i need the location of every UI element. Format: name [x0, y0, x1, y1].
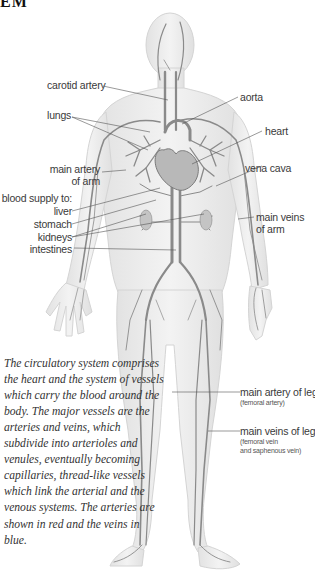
label-blood-supply-to: blood supply to: — [0, 192, 72, 204]
label-stomach: stomach — [0, 218, 72, 230]
label-vena-cava: vena cava — [245, 162, 291, 174]
label-main-veins-of-arm: main veins of arm — [256, 211, 304, 235]
label-main-artery-of-leg: main artery of leg (femoral artery) — [240, 386, 315, 407]
label-liver: liver — [0, 205, 72, 217]
label-main-veins-of-leg-sub2: and saphenous vein) — [240, 446, 315, 455]
label-main-veins-of-leg-title: main veins of leg — [240, 425, 315, 437]
label-main-veins-of-arm-line2: of arm — [256, 223, 285, 235]
label-kidneys: kidneys — [0, 231, 72, 243]
label-heart: heart — [265, 125, 288, 137]
label-main-artery-of-leg-title: main artery of leg — [240, 386, 315, 398]
label-main-veins-of-arm-line1: main veins — [256, 211, 304, 223]
label-carotid-artery: carotid artery — [47, 79, 105, 91]
label-intestines: intestines — [0, 243, 72, 255]
label-main-artery-of-arm-line2: of arm — [71, 175, 100, 187]
label-main-veins-of-leg-sub1: (femoral vein — [240, 437, 315, 446]
label-main-artery-of-arm: main artery of arm — [20, 163, 100, 187]
caption-text: The circulatory system comprises the hea… — [4, 356, 164, 549]
label-main-veins-of-leg: main veins of leg (femoral vein and saph… — [240, 425, 315, 455]
label-lungs: lungs — [47, 109, 71, 121]
label-aorta: aorta — [240, 91, 263, 103]
label-main-artery-of-leg-sub: (femoral artery) — [240, 398, 315, 407]
label-main-artery-of-arm-line1: main artery — [50, 163, 100, 175]
